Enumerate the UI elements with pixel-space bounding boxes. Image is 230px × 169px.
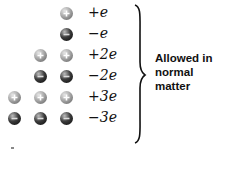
negative-particle-icon	[60, 112, 73, 125]
positive-particle-icon	[34, 91, 47, 104]
annotation-line: normal	[155, 65, 213, 79]
positive-particle-icon	[34, 49, 47, 62]
negative-particle-icon	[8, 112, 21, 125]
charge-label: −e	[88, 25, 108, 41]
charge-row-minus-3e: −3e	[0, 112, 130, 126]
positive-particle-icon	[60, 49, 73, 62]
positive-particle-icon	[8, 91, 21, 104]
annotation-line: Allowed in	[155, 51, 213, 65]
charge-label: +2e	[88, 46, 117, 62]
charge-label: +3e	[88, 88, 117, 104]
negative-particle-icon	[60, 28, 73, 41]
negative-particle-icon	[60, 70, 73, 83]
charge-label: +e	[88, 4, 108, 20]
annotation-line: matter	[155, 79, 213, 93]
negative-particle-icon	[34, 112, 47, 125]
charge-row-minus-2e: −2e	[0, 70, 130, 84]
charge-row-plus-2e: +2e	[0, 49, 130, 63]
negative-particle-icon	[34, 70, 47, 83]
charge-label: −3e	[88, 109, 117, 125]
stray-mark	[11, 147, 14, 149]
curly-brace-icon	[133, 4, 147, 144]
charge-row-plus-3e: +3e	[0, 91, 130, 105]
charge-row-minus-1e: −e	[0, 28, 130, 42]
positive-particle-icon	[60, 91, 73, 104]
charge-row-plus-1e: +e	[0, 7, 130, 21]
annotation-allowed-in-normal-matter: Allowed in normal matter	[155, 51, 213, 93]
charge-label: −2e	[88, 67, 117, 83]
positive-particle-icon	[60, 7, 73, 20]
